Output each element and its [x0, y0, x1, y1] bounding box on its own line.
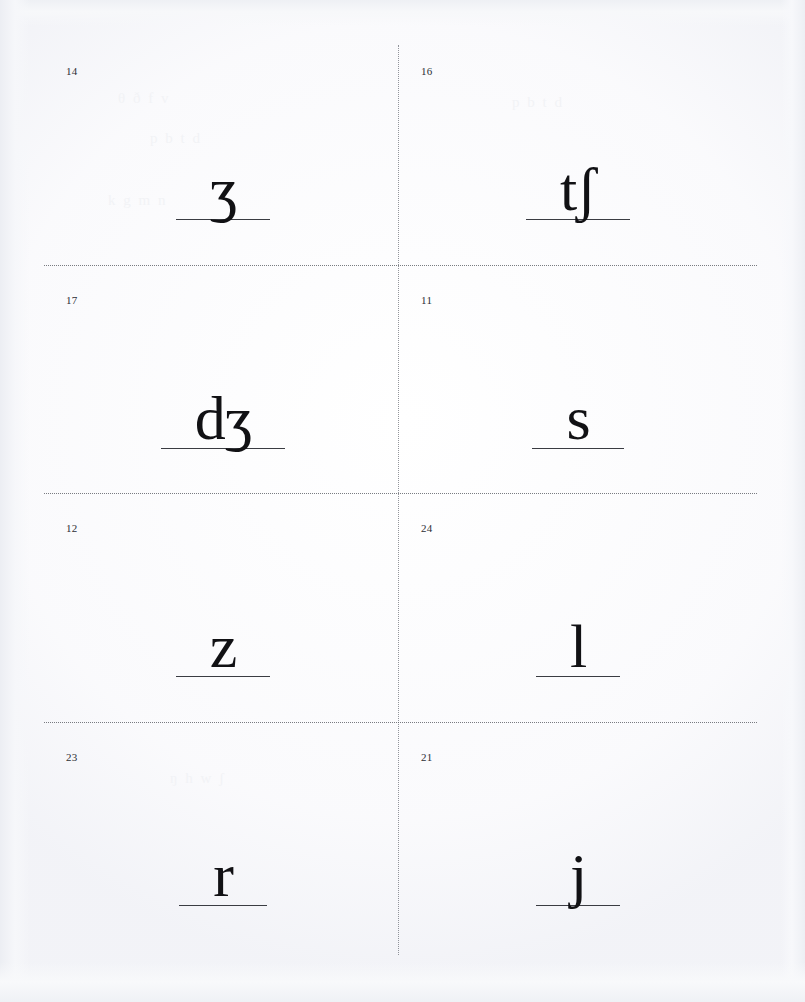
- symbol-block: dʒ: [44, 339, 402, 449]
- symbol-block: l: [399, 567, 757, 677]
- card-number: 21: [421, 752, 433, 763]
- symbol-block: r: [44, 796, 402, 906]
- flashcard[interactable]: 21 j: [399, 738, 757, 963]
- card-number: 12: [66, 523, 78, 534]
- ipa-symbol: dʒ: [195, 387, 252, 449]
- flashcard[interactable]: 11 s: [399, 281, 757, 506]
- flashcard[interactable]: 16 tʃ: [399, 52, 757, 277]
- symbol-block: j: [399, 796, 757, 906]
- card-number: 23: [66, 752, 78, 763]
- symbol-block: z: [44, 567, 402, 677]
- scan-edge-left: [0, 0, 30, 1002]
- scan-edge-right: [781, 0, 805, 1002]
- flashcard[interactable]: 24 l: [399, 509, 757, 734]
- ipa-symbol: l: [570, 615, 586, 677]
- symbol-block: s: [399, 339, 757, 449]
- card-number: 11: [421, 295, 432, 306]
- ipa-symbol: ʒ: [210, 158, 237, 220]
- ipa-symbol: tʃ: [560, 158, 596, 220]
- ipa-symbol: z: [210, 615, 237, 677]
- card-number: 24: [421, 523, 433, 534]
- flashcard-sheet-page: θ ð f v p b t d k g m n ŋ h w ʃ p b t d …: [0, 0, 805, 1002]
- flashcard[interactable]: 17 dʒ: [44, 281, 402, 506]
- ipa-symbol: j: [570, 844, 586, 906]
- symbol-block: ʒ: [44, 110, 402, 220]
- flashcard[interactable]: 14 ʒ: [44, 52, 402, 277]
- scan-edge-top: [0, 0, 805, 26]
- ipa-symbol: s: [566, 387, 589, 449]
- ipa-symbol: r: [213, 844, 233, 906]
- flashcard[interactable]: 23 r: [44, 738, 402, 963]
- symbol-block: tʃ: [399, 110, 757, 220]
- flashcard[interactable]: 12 z: [44, 509, 402, 734]
- card-number: 16: [421, 66, 433, 77]
- card-number: 14: [66, 66, 78, 77]
- card-number: 17: [66, 295, 78, 306]
- scan-edge-bottom: [0, 962, 805, 1002]
